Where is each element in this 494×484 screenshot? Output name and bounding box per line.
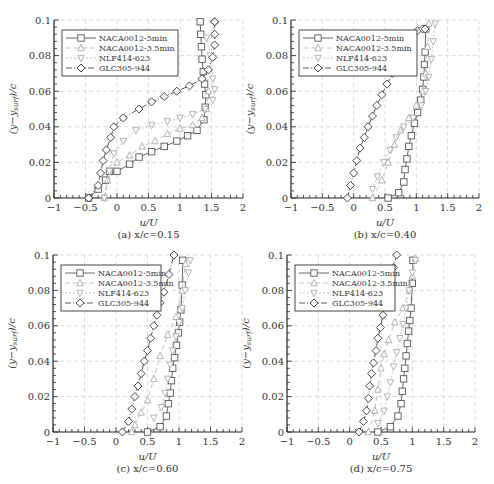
y-tick-label: 0.06 xyxy=(29,86,51,97)
chart-panel-a: −1−0.500.511.5200.020.040.060.080.1u/U(y… xyxy=(7,15,246,241)
y-tick-label: 0.1 xyxy=(34,250,50,261)
legend-item: NLF414-623 xyxy=(98,289,149,298)
y-axis-label: (y−ysurf)/c xyxy=(6,318,19,369)
legend: NACA0012-5minNACA0012-3.5minNLF414-623GL… xyxy=(295,265,408,311)
x-tick-label: 2 xyxy=(472,436,478,447)
x-tick-label: 1.5 xyxy=(440,202,456,213)
legend-item: NACA0012-5min xyxy=(332,269,400,278)
legend-item: NLF414-623 xyxy=(336,54,387,63)
x-tick-label: 2 xyxy=(240,202,246,213)
x-tick-label: 1.5 xyxy=(436,436,452,447)
legend-item: NACA0012-3.5min xyxy=(99,44,175,53)
x-tick-label: 0 xyxy=(114,202,120,213)
legend-item: NACA0012-5min xyxy=(99,34,167,43)
y-tick-label: 0.02 xyxy=(29,157,51,168)
x-tick-label: 1 xyxy=(413,202,419,213)
y-tick-label: 0 xyxy=(45,193,51,204)
y-tick-label: 0 xyxy=(282,193,288,204)
panel-caption: (a) x/c=0.15 xyxy=(117,229,179,240)
x-tick-label: −1 xyxy=(46,436,61,447)
x-tick-label: 2 xyxy=(476,202,482,213)
legend-item: NACA0012-3.5min xyxy=(98,279,174,288)
x-tick-label: −0.5 xyxy=(73,202,97,213)
x-tick-label: −1 xyxy=(284,202,299,213)
x-tick-label: −1 xyxy=(280,436,295,447)
y-tick-label: 0.04 xyxy=(28,356,50,367)
y-tick-label: 0.06 xyxy=(28,320,50,331)
x-tick-label: 1 xyxy=(176,436,182,447)
figure-canvas: −1−0.500.511.5200.020.040.060.080.1u/U(y… xyxy=(0,0,494,484)
chart-panel-c: −1−0.500.511.5200.020.040.060.080.1u/U(y… xyxy=(6,250,245,475)
legend-item: NLF414-623 xyxy=(332,289,383,298)
legend: NACA0012-5minNACA0012-3.5minNLF414-623GL… xyxy=(62,30,178,76)
panel-caption: (d) x/c=0.75 xyxy=(350,463,413,474)
x-tick-label: 0.5 xyxy=(377,202,393,213)
panel-caption: (c) x/c=0.60 xyxy=(117,463,179,474)
y-tick-label: 0.04 xyxy=(29,121,51,132)
x-tick-label: 0.5 xyxy=(373,436,389,447)
legend-item: NACA0012-5min xyxy=(98,269,166,278)
y-tick-label: 0.04 xyxy=(262,356,284,367)
y-axis-label: (y−ysurf)/c xyxy=(244,83,257,134)
y-tick-label: 0.02 xyxy=(28,391,50,402)
x-tick-label: 0.5 xyxy=(140,436,156,447)
x-tick-label: 1 xyxy=(177,202,183,213)
y-tick-label: 0.1 xyxy=(268,250,284,261)
chart-panel-d: −1−0.500.511.5200.020.040.060.080.1u/U(y… xyxy=(240,250,478,475)
x-axis-label: u/U xyxy=(372,451,391,462)
legend-item: GLC305-944 xyxy=(98,299,149,308)
x-axis-label: u/U xyxy=(139,217,158,228)
y-tick-label: 0.1 xyxy=(35,15,51,26)
x-axis-label: u/U xyxy=(376,217,395,228)
legend-item: GLC305-944 xyxy=(99,64,150,73)
y-tick-label: 0 xyxy=(278,427,284,438)
x-tick-label: −1 xyxy=(47,202,62,213)
legend-item: GLC305-944 xyxy=(332,299,383,308)
y-tick-label: 0.1 xyxy=(272,15,288,26)
x-tick-label: −0.5 xyxy=(306,436,330,447)
legend-item: GLC305-944 xyxy=(336,64,387,73)
legend-item: NLF414-623 xyxy=(99,54,150,63)
legend: NACA0012-5minNACA0012-3.5minNLF414-623GL… xyxy=(299,30,417,76)
y-tick-label: 0.06 xyxy=(266,86,288,97)
x-tick-label: −0.5 xyxy=(310,202,334,213)
x-axis-label: u/U xyxy=(138,451,157,462)
y-tick-label: 0.02 xyxy=(266,157,288,168)
legend: NACA0012-5minNACA0012-3.5minNLF414-623GL… xyxy=(61,265,174,311)
y-tick-label: 0.08 xyxy=(29,50,51,61)
legend-item: NACA0012-3.5min xyxy=(336,44,412,53)
panel-caption: (b) x/c=0.40 xyxy=(354,229,417,240)
chart-panel-b: −1−0.500.511.5200.020.040.060.080.1u/U(y… xyxy=(244,15,482,241)
y-tick-label: 0.06 xyxy=(262,320,284,331)
x-tick-label: 0 xyxy=(346,436,352,447)
y-tick-label: 0 xyxy=(44,427,50,438)
y-tick-label: 0.04 xyxy=(266,121,288,132)
x-tick-label: −0.5 xyxy=(72,436,96,447)
x-tick-label: 1 xyxy=(409,436,415,447)
x-tick-label: 0 xyxy=(113,436,119,447)
x-tick-label: 2 xyxy=(239,436,245,447)
y-axis-label: (y−ysurf)/c xyxy=(240,318,253,369)
x-tick-label: 1.5 xyxy=(204,202,220,213)
x-tick-label: 1.5 xyxy=(203,436,219,447)
x-tick-label: 0 xyxy=(350,202,356,213)
legend-item: NACA0012-5min xyxy=(336,34,404,43)
x-tick-label: 0.5 xyxy=(141,202,157,213)
y-tick-label: 0.08 xyxy=(262,285,284,296)
y-axis-label: (y−ysurf)/c xyxy=(7,83,20,134)
series-naca0012-3.5min xyxy=(101,88,211,201)
y-tick-label: 0.08 xyxy=(266,50,288,61)
y-tick-label: 0.08 xyxy=(28,285,50,296)
legend-item: NACA0012-3.5min xyxy=(332,279,408,288)
y-tick-label: 0.02 xyxy=(262,391,284,402)
